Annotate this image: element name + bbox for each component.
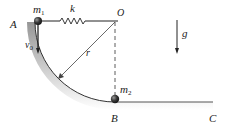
mass-m2: [111, 95, 119, 103]
mass-m1: [34, 17, 42, 25]
physics-diagram: A m1 k O g v0 r m2 B C: [0, 0, 226, 130]
label-r: r: [86, 47, 90, 58]
label-A: A: [9, 18, 17, 30]
label-g: g: [182, 27, 188, 39]
label-k: k: [70, 2, 76, 14]
label-B: B: [111, 112, 118, 124]
label-O: O: [117, 7, 124, 18]
label-m2: m2: [120, 83, 132, 97]
gravity-arrowhead: [175, 48, 179, 54]
label-C: C: [209, 112, 217, 124]
label-m1: m1: [33, 3, 45, 17]
spring: [60, 18, 85, 24]
